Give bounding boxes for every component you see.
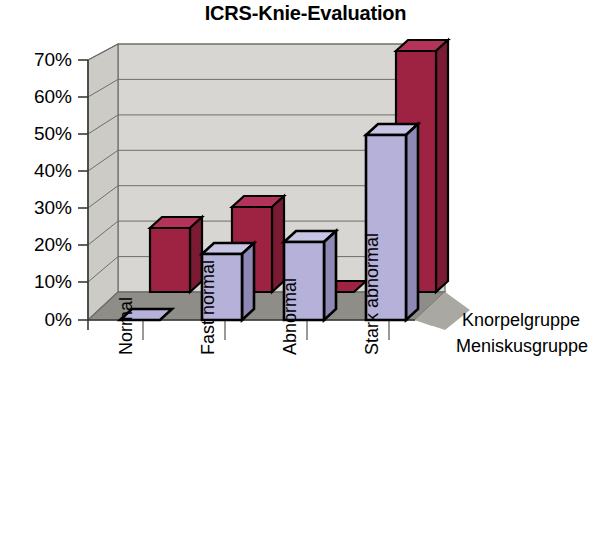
x-tick-label-stark-abnormal: Stark abnormal bbox=[362, 233, 383, 355]
x-axis-ticks bbox=[143, 320, 389, 340]
y-tick-label: 40% bbox=[0, 160, 72, 182]
y-tick-label: 60% bbox=[0, 86, 72, 108]
y-tick-label: 20% bbox=[0, 234, 72, 256]
chart-plot-area: 70% 60% 50% 40% 30% 20% 10% 0% Normal Fa… bbox=[0, 0, 611, 534]
legend-item-knorpelgruppe[interactable]: Knorpelgruppe bbox=[462, 310, 580, 331]
legend-item-meniskusgruppe[interactable]: Meniskusgruppe bbox=[456, 336, 588, 357]
y-tick-label: 70% bbox=[0, 49, 72, 71]
x-tick-label-fast-normal: Fast normal bbox=[198, 260, 219, 355]
chart-canvas bbox=[0, 0, 611, 534]
y-tick-label: 30% bbox=[0, 197, 72, 219]
y-tick-label: 50% bbox=[0, 123, 72, 145]
y-tick-label: 10% bbox=[0, 271, 72, 293]
chart-root: ICRS-Knie-Evaluation bbox=[0, 0, 611, 534]
y-tick-label: 0% bbox=[0, 309, 72, 331]
x-tick-label-normal: Normal bbox=[116, 297, 137, 355]
y-axis-ticks bbox=[78, 60, 88, 320]
x-tick-label-abnormal: Abnormal bbox=[280, 278, 301, 355]
bar-knorpelgruppe-normal[interactable] bbox=[150, 217, 202, 292]
